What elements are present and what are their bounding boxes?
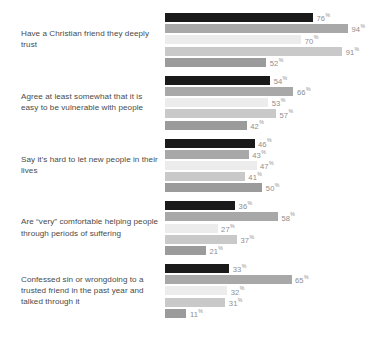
bar-value-number: 11 [190,310,198,319]
bar-value-number: 65 [295,276,304,285]
bar-value-number: 37 [241,236,250,245]
bar-row: 53% [165,98,384,107]
percent-sign: % [360,23,365,29]
group-bars: 46%43%47%41%50% [165,139,384,193]
percent-sign: % [290,211,295,217]
chart-group: Are “very” comfortable helping people th… [0,201,384,255]
percent-sign: % [304,274,309,280]
bar-value-label: 65% [295,275,308,284]
bar-value-label: 21% [209,246,222,255]
bar-series-5 [165,309,186,318]
bar-series-2 [165,24,348,33]
bar-row: 33% [165,264,384,273]
bar-series-4 [165,172,245,181]
bar-value-number: 50 [266,184,275,193]
bar-value-label: 37% [241,235,254,244]
percent-sign: % [275,182,280,188]
bar-row: 54% [165,76,384,85]
percent-sign: % [242,263,247,269]
bar-row: 47% [165,161,384,170]
bar-row: 66% [165,87,384,96]
bar-value-label: 27% [221,224,234,233]
bar-value-label: 47% [260,161,273,170]
bar-series-1 [165,13,313,22]
group-category-label: Agree at least somewhat that it is easy … [21,91,165,113]
bar-value-number: 70 [305,36,314,45]
bar-value-label: 53% [272,98,285,107]
bar-value-label: 52% [270,58,283,67]
percent-sign: % [218,245,223,251]
percent-sign: % [249,234,254,240]
bar-value-number: 41 [248,173,257,182]
bar-series-5 [165,58,266,67]
percent-sign: % [230,223,235,229]
bar-row: 57% [165,109,384,118]
chart-group: Have a Christian friend they deeply trus… [0,13,384,67]
bar-row: 36% [165,201,384,210]
bar-value-number: 52 [270,59,279,68]
grouped-bar-chart: Have a Christian friend they deeply trus… [0,0,384,360]
percent-sign: % [281,97,286,103]
bar-series-4 [165,235,237,244]
bar-row: 27% [165,224,384,233]
bar-value-number: 47 [260,162,269,171]
bar-series-5 [165,121,247,130]
bar-row: 11% [165,309,384,318]
bar-value-number: 32 [231,287,240,296]
bar-row: 32% [165,286,384,295]
bar-series-5 [165,183,262,192]
percent-sign: % [325,12,330,18]
percent-sign: % [283,75,288,81]
bar-value-label: 66% [297,87,310,96]
percent-sign: % [279,57,284,63]
bar-value-label: 58% [281,213,294,222]
bar-value-label: 36% [239,201,252,210]
bar-series-3 [165,35,301,44]
group-bars: 54%66%53%57%42% [165,76,384,130]
bar-series-2 [165,275,292,284]
bar-value-number: 94 [352,25,361,34]
percent-sign: % [240,285,245,291]
percent-sign: % [306,86,311,92]
bar-series-4 [165,109,276,118]
bar-value-label: 33% [233,264,246,273]
bar-value-label: 31% [229,298,242,307]
bar-row: 21% [165,246,384,255]
bar-value-label: 46% [258,139,271,148]
percent-sign: % [288,108,293,114]
group-category-label: Are “very” comfortable helping people th… [21,216,165,238]
bar-series-2 [165,87,293,96]
percent-sign: % [257,171,262,177]
group-category-label: Say it’s hard to let new people in their… [21,154,165,176]
bar-series-5 [165,246,206,255]
bar-value-label: 42% [250,121,263,130]
bar-series-3 [165,98,268,107]
bar-value-number: 21 [209,247,218,256]
chart-group: Confessed sin or wrongdoing to a trusted… [0,264,384,318]
bar-series-1 [165,76,270,85]
bar-value-label: 94% [352,24,365,33]
group-bars: 76%94%70%91%52% [165,13,384,67]
bar-value-number: 66 [297,88,306,97]
percent-sign: % [314,34,319,40]
bar-row: 43% [165,150,384,159]
percent-sign: % [259,119,264,125]
group-bars: 33%65%32%31%11% [165,264,384,318]
bar-row: 91% [165,47,384,56]
bar-series-1 [165,139,255,148]
chart-group: Agree at least somewhat that it is easy … [0,76,384,130]
bar-value-label: 54% [274,76,287,85]
percent-sign: % [238,297,243,303]
bar-row: 52% [165,58,384,67]
bar-row: 42% [165,121,384,130]
bar-row: 41% [165,172,384,181]
percent-sign: % [198,308,203,314]
group-category-label: Confessed sin or wrongdoing to a trusted… [21,274,165,308]
bar-row: 76% [165,13,384,22]
bar-value-label: 43% [252,150,265,159]
bar-value-label: 41% [248,172,261,181]
bar-series-4 [165,47,342,56]
bar-series-3 [165,286,227,295]
bar-value-number: 58 [281,213,290,222]
bar-value-number: 54 [274,77,283,86]
